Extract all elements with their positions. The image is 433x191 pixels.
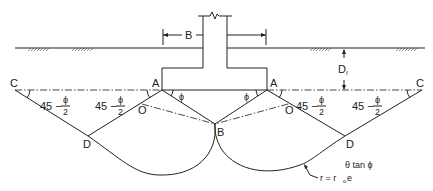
svg-text:ϕ: ϕ bbox=[118, 95, 123, 105]
svg-text:θ tan ϕ: θ tan ϕ bbox=[345, 160, 373, 170]
svg-text:2: 2 bbox=[375, 107, 380, 117]
angle-arcs bbox=[27, 90, 410, 98]
footing bbox=[162, 12, 267, 90]
svg-text:45 −: 45 − bbox=[296, 100, 318, 112]
width-label: B bbox=[185, 29, 192, 41]
point-o-right: O bbox=[285, 104, 294, 116]
point-a-left: A bbox=[152, 77, 160, 89]
point-c-left: C bbox=[10, 77, 18, 89]
log-spiral-right bbox=[215, 124, 345, 171]
svg-text:45 −: 45 − bbox=[352, 100, 374, 112]
ground-surface bbox=[15, 48, 425, 51]
point-a-right: A bbox=[270, 77, 278, 89]
angle-label-1: 45 − ϕ 2 bbox=[40, 95, 70, 117]
depth-dimension: D f bbox=[338, 49, 348, 90]
svg-text:e: e bbox=[347, 173, 352, 183]
angle-label-3: 45 − ϕ 2 bbox=[296, 95, 326, 117]
point-c-right: C bbox=[416, 77, 424, 89]
svg-text:r = r: r = r bbox=[320, 173, 336, 183]
point-d-right: D bbox=[346, 138, 354, 150]
angle-label-4: 45 − ϕ 2 bbox=[352, 95, 382, 117]
angle-label-2: 45 − ϕ 2 bbox=[95, 95, 125, 117]
angle-phi-right: ϕ bbox=[244, 92, 249, 102]
width-dimension: B bbox=[163, 29, 266, 45]
svg-text:ϕ: ϕ bbox=[375, 95, 380, 105]
log-spiral-left bbox=[88, 124, 215, 175]
angle-phi-left: ϕ bbox=[179, 92, 184, 102]
svg-text:2: 2 bbox=[319, 107, 324, 117]
depth-subscript: f bbox=[346, 70, 348, 76]
svg-text:45 −: 45 − bbox=[95, 100, 117, 112]
svg-text:ϕ: ϕ bbox=[63, 95, 68, 105]
point-d-left: D bbox=[83, 138, 91, 150]
bearing-capacity-diagram: B D f C C A bbox=[0, 0, 433, 191]
svg-text:2: 2 bbox=[63, 107, 68, 117]
svg-text:45 −: 45 − bbox=[40, 100, 62, 112]
point-o-left: O bbox=[138, 104, 147, 116]
point-b: B bbox=[217, 126, 224, 138]
spiral-equation: r = r o e θ tan ϕ bbox=[304, 160, 373, 184]
svg-text:2: 2 bbox=[118, 107, 123, 117]
depth-label: D bbox=[338, 63, 346, 75]
svg-text:ϕ: ϕ bbox=[319, 95, 324, 105]
